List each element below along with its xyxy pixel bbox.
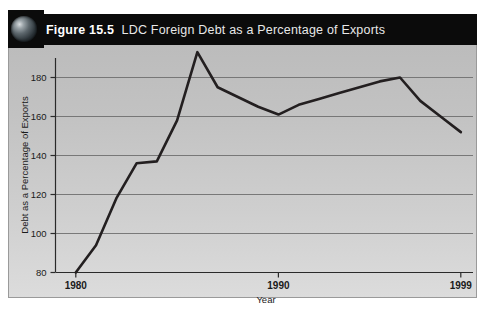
y-tick-label: 100 (31, 228, 47, 239)
y-tick-label: 120 (31, 189, 47, 200)
x-tick-label: 1990 (267, 280, 290, 291)
plot-area: 80100120140160180 198019901999 Debt as a… (0, 0, 491, 312)
y-tick-label: 140 (31, 150, 47, 161)
chart-svg: 80100120140160180 198019901999 Debt as a… (0, 0, 491, 312)
figure-container: Figure 15.5 LDC Foreign Debt as a Percen… (0, 0, 491, 312)
y-axis-ticks: 80100120140160180 (31, 72, 56, 278)
x-tick-label: 1999 (450, 280, 473, 291)
y-axis-label: Debt as a Percentage of Exports (19, 96, 30, 234)
data-line-series (76, 52, 461, 272)
gridlines (56, 78, 474, 234)
x-axis-ticks: 198019901999 (65, 273, 473, 291)
y-tick-label: 160 (31, 111, 47, 122)
x-tick-label: 1980 (65, 280, 88, 291)
y-tick-label: 180 (31, 72, 47, 83)
x-axis-label: Year (256, 294, 275, 305)
y-tick-label: 80 (36, 267, 47, 278)
